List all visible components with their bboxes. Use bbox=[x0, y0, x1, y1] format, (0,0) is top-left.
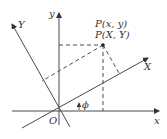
label-x: x bbox=[154, 115, 160, 126]
label-angle: ϕ bbox=[82, 99, 89, 110]
label-Y: Y bbox=[18, 19, 26, 30]
label-origin: O bbox=[49, 115, 57, 126]
label-point-XY: P(X, Y) bbox=[94, 29, 130, 40]
label-point-xy: P(x, y) bbox=[94, 18, 127, 29]
rotation-diagram: y Y P(x, y) P(X, Y) X ϕ O x bbox=[0, 0, 167, 139]
Y-axis-rotated bbox=[12, 24, 70, 127]
label-y: y bbox=[48, 8, 55, 19]
X-axis-rotated bbox=[22, 58, 148, 128]
projection-to-Y bbox=[42, 45, 103, 81]
projection-to-X bbox=[103, 45, 119, 73]
point-P bbox=[101, 43, 105, 47]
label-X: X bbox=[143, 61, 152, 72]
